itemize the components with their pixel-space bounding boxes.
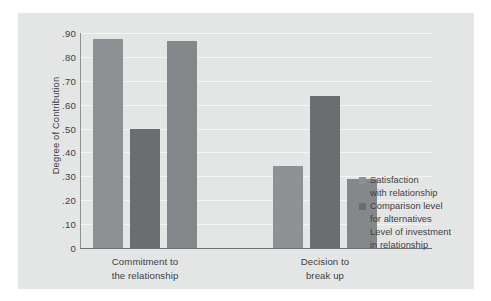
y-axis-tick-label: 0 <box>70 243 76 254</box>
x-axis-group-label-line: Commitment to <box>112 255 179 269</box>
x-axis-group-label-line: Decision to <box>301 255 350 269</box>
x-axis-group-label-line: break up <box>301 269 350 283</box>
y-axis-tick-label: .70 <box>62 75 76 86</box>
y-axis-tick-label: .50 <box>62 123 76 134</box>
y-axis-tick-label: .30 <box>62 171 76 182</box>
legend-swatch-icon <box>359 203 366 210</box>
legend-label: Level of investmentin relationship <box>370 226 451 251</box>
y-axis-line <box>80 33 81 248</box>
legend-label-line: Comparison level <box>370 200 443 213</box>
bar <box>310 96 340 248</box>
chart-panel: Degree of Contribution 0.10.20.30.40.50.… <box>18 13 474 289</box>
gridline <box>81 33 432 34</box>
legend-item: Satisfactionwith relationship <box>359 174 471 199</box>
gridline <box>81 105 432 106</box>
bar <box>93 39 123 248</box>
y-axis-tick-label: .60 <box>62 99 76 110</box>
legend-label-line: Satisfaction <box>370 174 438 187</box>
legend-swatch-icon <box>359 177 366 184</box>
bar <box>130 129 160 248</box>
x-axis-group-label: Commitment tothe relationship <box>112 255 179 282</box>
y-axis-title: Degree of Contribution <box>50 56 61 196</box>
legend-label-line: for alternatives <box>370 213 443 226</box>
legend-swatch-icon <box>359 229 366 236</box>
legend-label-line: with relationship <box>370 187 438 200</box>
x-axis-group-label: Decision tobreak up <box>301 255 350 282</box>
gridline <box>81 57 432 58</box>
y-axis-tick-label: .20 <box>62 195 76 206</box>
bar <box>167 41 197 248</box>
legend-label: Satisfactionwith relationship <box>370 174 438 199</box>
legend-label: Comparison levelfor alternatives <box>370 200 443 225</box>
legend-item: Level of investmentin relationship <box>359 226 471 251</box>
legend-label-line: Level of investment <box>370 226 451 239</box>
x-axis-group-label-line: the relationship <box>112 269 179 283</box>
chart-figure: Degree of Contribution 0.10.20.30.40.50.… <box>0 0 491 301</box>
y-axis-tick-label: .90 <box>62 28 76 39</box>
bar <box>273 166 303 248</box>
y-axis-tick-label: .40 <box>62 147 76 158</box>
y-axis-tick-label: .80 <box>62 51 76 62</box>
gridline <box>81 81 432 82</box>
y-axis-tick-label: .10 <box>62 219 76 230</box>
chart-legend: Satisfactionwith relationshipComparison … <box>359 174 471 253</box>
legend-label-line: in relationship <box>370 239 451 252</box>
legend-item: Comparison levelfor alternatives <box>359 200 471 225</box>
